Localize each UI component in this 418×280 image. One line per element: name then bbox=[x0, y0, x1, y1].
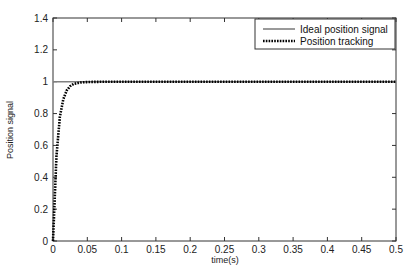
plot-border bbox=[53, 18, 396, 241]
y-tick-label: 0 bbox=[42, 236, 48, 247]
x-tick-label: 0.3 bbox=[252, 244, 266, 255]
x-tick-label: 0.05 bbox=[78, 244, 98, 255]
x-tick-label: 0.45 bbox=[352, 244, 372, 255]
y-tick-label: 1.4 bbox=[34, 13, 48, 24]
line-chart: 00.20.40.60.811.21.4 00.050.10.150.20.25… bbox=[0, 0, 418, 280]
y-tick-label: 0.8 bbox=[34, 108, 48, 119]
x-tick-label: 0.5 bbox=[389, 244, 403, 255]
y-tick-label: 0.6 bbox=[34, 140, 48, 151]
x-tick-label: 0.1 bbox=[115, 244, 129, 255]
x-tick-label: 0 bbox=[50, 244, 56, 255]
x-tick-label: 0.25 bbox=[215, 244, 235, 255]
y-axis-label: Position signal bbox=[5, 101, 15, 159]
x-tick-label: 0.35 bbox=[283, 244, 303, 255]
y-tick-label: 0.2 bbox=[34, 204, 48, 215]
plot-area bbox=[53, 18, 396, 241]
x-tick-label: 0.15 bbox=[146, 244, 166, 255]
x-axis-label: time(s) bbox=[211, 255, 239, 265]
y-tick-label: 1 bbox=[42, 76, 48, 87]
legend-label-tracking: Position tracking bbox=[300, 36, 373, 47]
legend: Ideal position signalPosition tracking bbox=[255, 19, 395, 49]
x-tick-label: 0.2 bbox=[183, 244, 197, 255]
y-tick-label: 1.2 bbox=[34, 44, 48, 55]
x-tick-label: 0.4 bbox=[320, 244, 334, 255]
y-tick-label: 0.4 bbox=[34, 172, 48, 183]
legend-label-ideal: Ideal position signal bbox=[300, 24, 388, 35]
